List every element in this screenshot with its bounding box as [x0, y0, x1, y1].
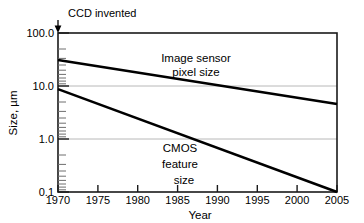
y-tick-label-100: 100.0	[26, 27, 54, 39]
chart-canvas: 100.0 10.0 1.0 0.1 1970 1975 1980 1985 1…	[0, 0, 364, 223]
x-tick-label-1990: 1990	[205, 194, 229, 206]
annotation-ccd-invented-label: CCD invented	[68, 7, 136, 19]
y-tick-label-1: 1.0	[39, 133, 54, 145]
x-tick-label-1970: 1970	[46, 194, 70, 206]
x-tick-label-1980: 1980	[125, 194, 149, 206]
series-label-image-sensor-line1: Image sensor	[161, 52, 231, 64]
series-label-cmos-line2: feature	[162, 158, 198, 170]
series-label-cmos-line1: CMOS	[163, 142, 198, 154]
y-tick-label-10: 10.0	[33, 80, 54, 92]
x-tick-label-1995: 1995	[245, 194, 269, 206]
annotation-ccd-invented-arrow-icon	[55, 20, 62, 33]
y-axis-title: Size, µm	[7, 91, 19, 136]
x-tick-label-2000: 2000	[285, 194, 309, 206]
series-label-image-sensor-line2: pixel size	[172, 66, 219, 78]
x-tick-label-1975: 1975	[86, 194, 110, 206]
chart-figure: 100.0 10.0 1.0 0.1 1970 1975 1980 1985 1…	[0, 0, 364, 223]
x-tick-label-2005: 2005	[325, 194, 349, 206]
x-tick-label-1985: 1985	[165, 194, 189, 206]
series-label-cmos-line3: size	[174, 174, 194, 186]
x-axis-title: Year	[188, 209, 211, 221]
